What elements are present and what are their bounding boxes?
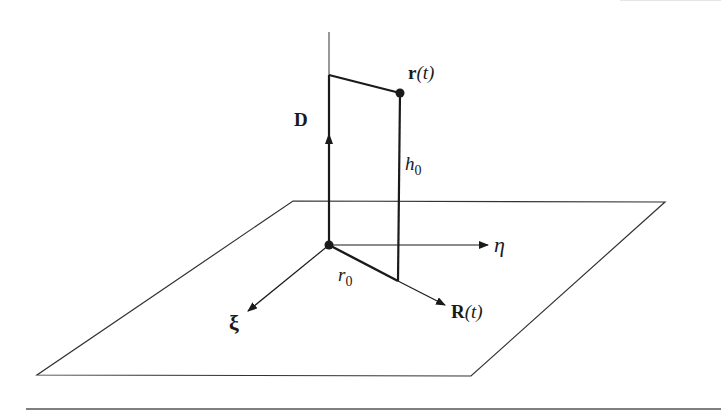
- position-point: [396, 89, 405, 98]
- dipole-label: D: [294, 109, 308, 130]
- position-vector-label: r(t): [408, 62, 434, 84]
- dipole-arrow-icon: [325, 133, 333, 144]
- eta-axis-label: η: [494, 232, 505, 257]
- radius-label: r0: [338, 264, 352, 289]
- xi-axis-label: ξ: [229, 310, 239, 335]
- top-connector-line: [329, 75, 400, 93]
- xi-axis-arrow: [248, 245, 329, 311]
- origin-point: [325, 241, 334, 250]
- projection-arrow: [398, 281, 445, 305]
- projection-label: R(t): [451, 301, 483, 323]
- height-label: h0: [405, 153, 422, 178]
- diagram-canvas: r(t) D h0 η r0 ξ R(t): [0, 0, 721, 413]
- height-line: [398, 93, 400, 281]
